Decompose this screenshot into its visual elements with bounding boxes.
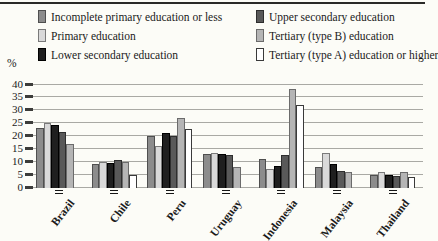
bar-peru-series-4 <box>177 118 185 188</box>
legend-item-upper-secondary: Upper secondary education <box>256 7 438 26</box>
y-axis-tick <box>25 160 33 163</box>
bar-thailand-series-4 <box>400 172 408 188</box>
bar-chile-series-3 <box>114 160 122 187</box>
legend-item-tertiary-a: Tertiary (type A) education or higher <box>256 45 438 64</box>
legend-label: Incomplete primary education or less <box>51 11 222 23</box>
x-axis-label-chile: Chile <box>107 197 133 225</box>
legend-item-primary: Primary education <box>38 26 222 45</box>
bar-peru-series-5 <box>185 129 193 187</box>
x-axis-tick <box>333 190 341 194</box>
gridline-35 <box>28 96 423 97</box>
gridline-25 <box>28 122 423 123</box>
y-axis-label-10: 10 <box>1 156 23 167</box>
y-axis-tick <box>25 186 33 189</box>
bar-brazil-series-1 <box>44 123 52 188</box>
y-axis-label-0: 0 <box>1 182 23 193</box>
bar-chart: 0510152025303540BrazilChilePeruUruguayIn… <box>0 70 425 241</box>
legend-column-right: Upper secondary education Tertiary (type… <box>256 7 438 64</box>
y-axis-tick <box>25 147 33 150</box>
x-axis-label-brazil: Brazil <box>49 197 77 228</box>
legend-item-tertiary-b: Tertiary (type B) education <box>256 26 438 45</box>
y-axis-label-35: 35 <box>1 91 23 102</box>
legend-label: Tertiary (type A) education or higher <box>269 49 438 61</box>
x-axis-label-uruguay: Uruguay <box>208 197 244 239</box>
x-axis-label-thailand: Thailand <box>374 197 411 240</box>
gridline-30 <box>28 109 423 110</box>
bar-indonesia-series-0 <box>259 159 267 187</box>
y-axis-label-25: 25 <box>1 117 23 128</box>
y-axis-label-5: 5 <box>1 169 23 180</box>
bar-indonesia-series-4 <box>289 89 297 187</box>
bar-thailand-series-2 <box>385 175 393 188</box>
legend-swatch-tertiary-a <box>256 48 264 61</box>
x-axis-tick <box>110 190 118 194</box>
bar-peru-series-3 <box>170 136 178 188</box>
bar-thailand-series-1 <box>378 172 386 188</box>
bar-thailand-series-5 <box>408 177 416 187</box>
y-axis-tick <box>25 83 33 86</box>
bar-chile-series-4 <box>122 162 130 188</box>
legend-swatch-lower-secondary <box>38 48 46 61</box>
bar-malaysia-series-2 <box>330 164 338 187</box>
bar-uruguay-series-0 <box>203 154 211 188</box>
bar-chile-series-5 <box>129 175 137 188</box>
bar-uruguay-series-2 <box>218 154 226 188</box>
gridline-20 <box>28 135 423 136</box>
x-axis-tick <box>222 190 230 194</box>
bar-brazil-series-3 <box>59 132 67 188</box>
plot-area <box>33 84 423 188</box>
bar-uruguay-series-3 <box>226 155 234 187</box>
legend-swatch-tertiary-b <box>256 29 264 42</box>
x-axis-tick <box>166 190 174 194</box>
y-axis-tick <box>25 134 33 137</box>
legend-label: Upper secondary education <box>269 11 395 23</box>
bar-chile-series-0 <box>92 164 100 187</box>
bar-peru-series-0 <box>147 136 155 188</box>
bar-chile-series-1 <box>99 162 107 188</box>
bar-malaysia-series-0 <box>315 167 323 188</box>
legend-swatch-primary <box>38 29 46 42</box>
bar-chile-series-2 <box>107 163 115 188</box>
y-axis-label-20: 20 <box>1 130 23 141</box>
bar-malaysia-series-3 <box>337 171 345 188</box>
bar-indonesia-series-1 <box>266 169 274 187</box>
legend-column-left: Incomplete primary education or less Pri… <box>38 7 222 64</box>
legend-swatch-incomplete-primary <box>38 10 46 23</box>
x-axis-tick <box>55 190 63 194</box>
bar-thailand-series-0 <box>370 175 378 188</box>
bar-peru-series-2 <box>162 133 170 187</box>
bar-uruguay-series-4 <box>233 167 241 188</box>
bar-brazil-series-2 <box>51 125 59 187</box>
bar-peru-series-1 <box>155 146 163 187</box>
bar-malaysia-series-1 <box>322 153 330 188</box>
x-axis-tick <box>277 190 285 194</box>
bar-indonesia-series-3 <box>281 155 289 187</box>
y-axis-tick <box>25 108 33 111</box>
legend-label: Lower secondary education <box>51 49 178 61</box>
y-axis-tick <box>25 173 33 176</box>
bar-indonesia-series-2 <box>274 166 282 188</box>
bar-brazil-series-0 <box>36 128 44 188</box>
gridline-40 <box>28 84 423 85</box>
y-axis-label-30: 30 <box>1 104 23 115</box>
y-axis-label-40: 40 <box>1 79 23 90</box>
x-axis-tick <box>389 190 397 194</box>
bar-uruguay-series-1 <box>211 153 219 188</box>
legend-swatch-upper-secondary <box>256 10 264 23</box>
bar-thailand-series-3 <box>393 176 401 188</box>
legend-item-incomplete-primary: Incomplete primary education or less <box>38 7 222 26</box>
x-axis-label-peru: Peru <box>164 197 188 223</box>
legend: Incomplete primary education or less Pri… <box>0 7 425 65</box>
gridline-15 <box>28 148 423 149</box>
bar-indonesia-series-5 <box>296 105 304 188</box>
y-axis-tick <box>25 121 33 124</box>
bar-malaysia-series-4 <box>345 172 353 188</box>
y-axis-label-15: 15 <box>1 143 23 154</box>
top-rule <box>0 2 425 4</box>
x-axis-label-indonesia: Indonesia <box>261 197 300 241</box>
legend-item-lower-secondary: Lower secondary education <box>38 45 222 64</box>
y-axis-tick <box>25 95 33 98</box>
x-axis-label-malaysia: Malaysia <box>319 197 356 240</box>
legend-label: Tertiary (type B) education <box>269 30 394 42</box>
legend-label: Primary education <box>51 30 136 42</box>
